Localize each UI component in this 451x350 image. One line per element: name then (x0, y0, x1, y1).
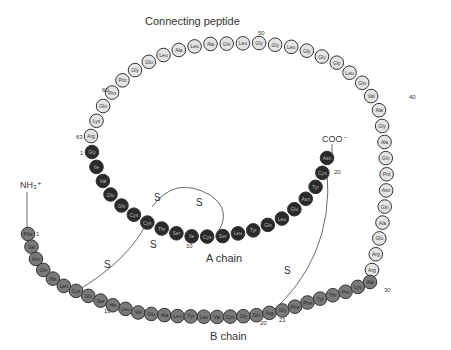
residue-label: Phe (24, 231, 33, 237)
residue-label: Leu (159, 52, 168, 58)
c-peptide-number-60: 60 (102, 87, 109, 93)
residue-label: Gly (88, 149, 96, 155)
residue-label: Leu (345, 70, 354, 76)
residue-beads: ArgLysGlnProProGlyGluLeuAlaLeuAlaGlnLeuG… (21, 36, 393, 323)
residue-label: Lys (354, 284, 362, 290)
s-label-2: S (150, 239, 157, 250)
residue-label: Cys (203, 234, 212, 240)
residue-label: Leu (287, 44, 296, 50)
c-peptide-chain: ArgLysGlnProProGlyGluLeuAlaLeuAlaGlnLeuG… (84, 36, 393, 277)
residue-label: Gly (84, 293, 92, 299)
residue-label: Ala (207, 41, 214, 47)
residue-label: Cys (130, 212, 139, 218)
c-peptide-number-40: 40 (409, 94, 416, 100)
residue-label: Val (99, 178, 106, 184)
residue-label: Leu (60, 283, 69, 289)
s-label-3: S (104, 259, 111, 270)
residue-label: Leu (278, 216, 287, 222)
residue-label: Pro (119, 77, 127, 83)
residue-label: Leu (234, 230, 243, 236)
residue-label: Thr (329, 292, 337, 298)
residue-label: Phe (291, 304, 300, 310)
residue-label: Val (368, 93, 375, 99)
residue-label: Asn (301, 196, 310, 202)
residue-label: Gly (303, 48, 311, 54)
residue-label: Gly (240, 313, 248, 319)
b-chain: PheValAsnGlnHisLeuCysGlySerHisLeuValGluA… (21, 227, 377, 324)
residue-label: Gln (264, 222, 272, 228)
residue-label: Gly (318, 54, 326, 60)
residue-label: Ser (97, 298, 105, 304)
residue-label: Pro (383, 171, 391, 177)
residue-label: Tyr (317, 296, 324, 302)
residue-label: Tyr (187, 313, 194, 319)
residue-label: Glu (145, 59, 153, 65)
residue-label: Tyr (312, 184, 319, 190)
residue-label: Glu (358, 80, 366, 86)
residue-label: Leu (239, 40, 248, 46)
residue-label: Cys (143, 220, 152, 226)
residue-label: His (49, 276, 57, 282)
residue-label: Val (214, 314, 221, 320)
residue-label: Pro (108, 90, 116, 96)
b-chain-label: B chain (210, 330, 247, 342)
residue-label: Arg (266, 310, 274, 316)
residue-label: Glu (253, 312, 261, 318)
residue-label: Glu (375, 235, 383, 241)
residue-label: Ala (375, 107, 382, 113)
c-peptide-number-50: 50 (258, 30, 265, 36)
n-terminus-label: NH₃⁺ (20, 180, 42, 190)
a-chain-label: A chain (206, 252, 242, 264)
residue-label: Gln (99, 103, 107, 109)
residue-label: Cys (72, 288, 81, 294)
residue-label: Gln (39, 267, 47, 273)
residue-label: Gln (382, 155, 390, 161)
residue-label: Val (28, 244, 35, 250)
residue-label: Arg (368, 267, 376, 273)
residue-label: Leu (200, 314, 209, 320)
s-label-0: S (154, 192, 161, 203)
residue-label: Glu (147, 311, 155, 317)
residue-label: Ala (366, 279, 373, 285)
a-chain-number-10: 10 (186, 243, 193, 249)
residue-label: Gln (118, 203, 126, 209)
residue-label: Ala (161, 312, 168, 318)
residue-label: Gly (279, 307, 287, 313)
b-chain-number-1: 1 (36, 231, 40, 237)
residue-label: Gln (223, 41, 231, 47)
a-chain-number-20: 20 (334, 169, 341, 175)
residue-label: Lys (93, 118, 101, 124)
connecting-peptide-label: Connecting peptide (145, 15, 240, 27)
residue-label: Gly (378, 123, 386, 129)
residue-label: Glu (290, 206, 298, 212)
residue-label: Phe (303, 300, 312, 306)
residue-label: Gly (255, 40, 263, 46)
b-chain-number-30: 30 (384, 287, 391, 293)
residue-label: Gly (333, 60, 341, 66)
proinsulin-diagram: ArgLysGlnProProGlyGluLeuAlaLeuAlaGlnLeuG… (0, 0, 451, 350)
residue-label: Leu (121, 306, 130, 312)
residue-label: Glu (107, 192, 115, 198)
residue-label: Asn (32, 256, 41, 262)
residue-label: Cys (318, 170, 327, 176)
b-chain-number-21: 21 (279, 317, 286, 323)
residue-label: Asn (323, 155, 332, 161)
residue-label: Cys (226, 314, 235, 320)
residue-label: Val (135, 309, 142, 315)
residue-label: Ser (173, 230, 181, 236)
residue-label: Pro (342, 289, 350, 295)
residue-label: Asn (382, 187, 391, 193)
residue-label: Arg (87, 133, 95, 139)
b-chain-number-10: 10 (104, 308, 111, 314)
a-chain-number-1: 1 (80, 150, 84, 156)
s-label-1: S (196, 197, 203, 208)
residue-label: Tyr (250, 227, 257, 233)
c-peptide-number-63: 63 (76, 134, 83, 140)
residue-label: Ala (175, 47, 182, 53)
residue-label: Leu (190, 43, 199, 49)
residue-label: Ala (379, 220, 386, 226)
residue-label: Ser (219, 233, 227, 239)
c-terminus-label: COO⁻ (322, 134, 348, 144)
s-label-4: S (284, 265, 291, 276)
residue-label: Ile (94, 164, 100, 170)
